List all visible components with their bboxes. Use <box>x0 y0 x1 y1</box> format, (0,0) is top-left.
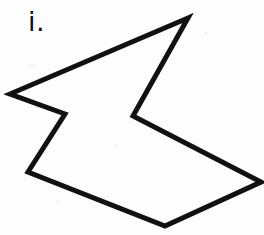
irregular-polygon-outline <box>10 18 261 226</box>
figure-label: i. <box>28 8 45 35</box>
figure-canvas: i. <box>0 0 264 235</box>
